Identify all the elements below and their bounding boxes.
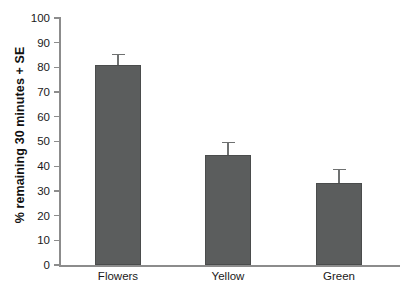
y-axis-tick: 0	[54, 264, 59, 265]
y-axis-tick-label: 90	[37, 37, 50, 49]
y-axis-tick: 20	[54, 215, 59, 216]
y-axis-tick-label: 10	[37, 234, 50, 246]
y-axis-tick-label: 40	[37, 160, 50, 172]
y-axis-tick-label: 80	[37, 61, 50, 73]
error-bar-line	[117, 54, 119, 65]
y-axis-tick-label: 50	[37, 135, 50, 147]
y-axis-tick-label: 0	[44, 259, 50, 271]
bar	[205, 155, 251, 265]
y-axis-title-container: % remaining 30 minutes + SE	[0, 0, 38, 289]
error-bar-cap	[112, 54, 125, 56]
y-axis-tick: 100	[54, 17, 59, 18]
y-axis-tick-label: 60	[37, 111, 50, 123]
y-axis-tick: 50	[54, 141, 59, 142]
x-axis-tick-label: Green	[289, 270, 389, 282]
y-axis-tick-label: 30	[37, 185, 50, 197]
x-axis-tick-label: Flowers	[68, 270, 168, 282]
y-axis-tick: 80	[54, 67, 59, 68]
plot-area: 0102030405060708090100 FlowersYellowGree…	[59, 18, 400, 265]
x-axis-tick-label: Yellow	[178, 270, 278, 282]
error-bar-cap	[222, 142, 235, 144]
y-axis-tick: 40	[54, 166, 59, 167]
y-axis-tick-label: 70	[37, 86, 50, 98]
y-axis-tick: 10	[54, 240, 59, 241]
y-axis-title: % remaining 30 minutes + SE	[13, 30, 27, 240]
error-bar-cap	[333, 169, 346, 171]
y-axis-tick-label: 20	[37, 210, 50, 222]
y-axis-line	[59, 17, 61, 266]
bar	[316, 183, 362, 265]
y-axis-tick: 70	[54, 91, 59, 92]
y-axis-tick: 30	[54, 190, 59, 191]
y-axis-tick-label: 100	[31, 12, 50, 24]
bar	[95, 65, 141, 265]
error-bar-line	[338, 169, 340, 184]
bar-chart-figure: % remaining 30 minutes + SE 010203040506…	[0, 0, 410, 289]
y-axis-tick: 90	[54, 42, 59, 43]
x-axis-line	[59, 265, 400, 267]
error-bar-line	[227, 142, 229, 156]
y-axis-tick: 60	[54, 116, 59, 117]
